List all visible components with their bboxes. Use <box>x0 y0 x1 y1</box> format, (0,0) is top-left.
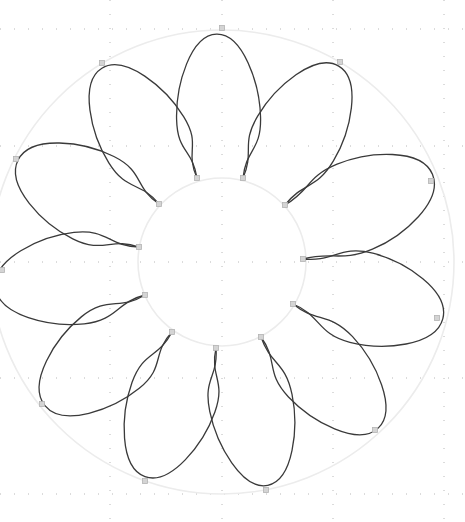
anchor-point-outer[interactable] <box>338 60 343 65</box>
petal-bottom-right[interactable] <box>208 337 295 486</box>
anchor-point-inner[interactable] <box>157 202 162 207</box>
petal-left-lower[interactable] <box>0 232 145 325</box>
petal-bottom-left[interactable] <box>124 332 219 478</box>
anchor-point-outer[interactable] <box>264 488 269 493</box>
anchor-point-inner[interactable] <box>291 302 296 307</box>
outer-guide-circle <box>0 30 454 494</box>
anchor-point-outer[interactable] <box>100 61 105 66</box>
anchor-point-outer[interactable] <box>14 157 19 162</box>
petal-upper-left[interactable] <box>89 65 197 204</box>
anchor-point-inner[interactable] <box>143 293 148 298</box>
petal-right-upper[interactable] <box>285 154 434 259</box>
flower-petals[interactable] <box>0 34 444 486</box>
anchor-points[interactable] <box>0 26 440 493</box>
anchor-point-outer[interactable] <box>429 179 434 184</box>
anchor-point-outer[interactable] <box>373 428 378 433</box>
anchor-point-outer[interactable] <box>143 479 148 484</box>
anchor-point-inner[interactable] <box>195 176 200 181</box>
anchor-point-outer[interactable] <box>435 316 440 321</box>
anchor-point-inner[interactable] <box>241 176 246 181</box>
anchor-point-inner[interactable] <box>301 257 306 262</box>
anchor-point-inner[interactable] <box>170 330 175 335</box>
petal-right-lower[interactable] <box>293 251 444 346</box>
anchor-point-outer[interactable] <box>220 26 225 31</box>
anchor-point-inner[interactable] <box>137 245 142 250</box>
drawing-canvas[interactable] <box>0 0 465 522</box>
anchor-point-inner[interactable] <box>283 203 288 208</box>
anchor-point-inner[interactable] <box>259 335 264 340</box>
anchor-point-outer[interactable] <box>40 402 45 407</box>
anchor-point-inner[interactable] <box>214 346 219 351</box>
anchor-point-outer[interactable] <box>0 268 5 273</box>
